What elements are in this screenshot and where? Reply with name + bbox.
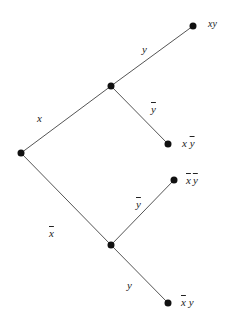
leaf-label-xy: xy xyxy=(208,19,217,29)
node-xbar-ybar xyxy=(171,177,178,184)
leaf-label-xbar-y-x: x xyxy=(181,296,186,308)
edge-xbar-ybar xyxy=(111,180,174,245)
node-xbar-y xyxy=(165,300,172,307)
leaf-label-xbar-ybar-y: y xyxy=(193,174,198,186)
leaf-label-xbar-ybar-x: x xyxy=(186,174,191,186)
edge-x-ybar xyxy=(111,86,168,144)
tree-diagram xyxy=(0,0,227,328)
edge-label-upper-y: y xyxy=(142,44,147,55)
node-xbar xyxy=(108,242,115,249)
edge-label-xbar: x xyxy=(49,228,54,239)
node-x xyxy=(108,83,115,90)
leaf-label-xbar-y: x y xyxy=(181,297,194,308)
edge-label-x: x xyxy=(37,113,42,124)
node-x-ybar xyxy=(165,141,172,148)
edge-root-x xyxy=(21,86,111,153)
leaf-label-xbar-y-y: y xyxy=(189,296,194,308)
edge-xbar-y xyxy=(111,245,168,303)
leaf-label-x-ybar-x: x xyxy=(182,137,187,149)
edge-root-xbar xyxy=(21,153,111,245)
node-root xyxy=(18,150,25,157)
edge-label-lower-y: y xyxy=(127,280,132,291)
edge-x-y xyxy=(111,26,193,86)
leaf-label-xbar-ybar: xy xyxy=(186,175,198,186)
node-xy xyxy=(190,23,197,30)
leaf-label-x-ybar-y: y xyxy=(190,137,195,149)
leaf-label-x-ybar: x y xyxy=(182,138,195,149)
edge-label-lower-ybar: y xyxy=(136,199,141,210)
edge-label-upper-ybar: y xyxy=(151,104,156,115)
